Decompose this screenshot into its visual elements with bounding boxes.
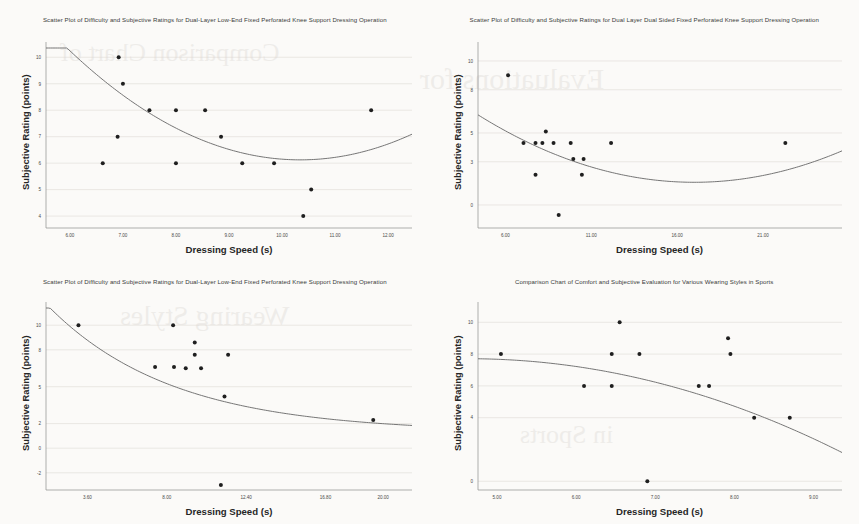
svg-text:12.40: 12.40: [240, 495, 252, 500]
scatter-plot-top-right: 0358106.0011.0016.0021.00: [430, 0, 859, 262]
svg-text:5.00: 5.00: [492, 495, 501, 500]
svg-text:16.00: 16.00: [671, 233, 683, 238]
svg-text:4: 4: [470, 415, 473, 420]
svg-text:10: 10: [467, 320, 473, 325]
svg-text:10: 10: [36, 55, 42, 60]
svg-text:3: 3: [470, 160, 473, 165]
scatter-plot-bottom-left: -20258103.608.0012.4016.8020.00: [0, 262, 430, 524]
svg-text:11.00: 11.00: [330, 233, 342, 238]
svg-text:0: 0: [38, 446, 41, 451]
svg-text:5: 5: [38, 385, 41, 390]
svg-text:-2: -2: [37, 471, 42, 476]
svg-text:7.00: 7.00: [118, 233, 127, 238]
svg-text:6.00: 6.00: [571, 495, 580, 500]
svg-text:8: 8: [470, 88, 473, 93]
y-axis-label: Subjective Rating (points): [452, 74, 463, 190]
panel-top-left: Scatter Plot of Difficulty and Subjectiv…: [0, 0, 430, 262]
x-axis-label: Dressing Speed (s): [46, 244, 412, 255]
svg-text:8.00: 8.00: [162, 495, 171, 500]
svg-text:6.00: 6.00: [500, 233, 509, 238]
x-axis-label: Dressing Speed (s): [478, 506, 842, 517]
panel-bottom-right: Comparison Chart of Comfort and Subjecti…: [430, 262, 859, 524]
svg-text:6.00: 6.00: [65, 233, 74, 238]
svg-text:10.00: 10.00: [276, 233, 288, 238]
scatter-plot-bottom-right: 0468105.006.007.008.009.00: [430, 262, 859, 524]
svg-text:10: 10: [467, 59, 473, 64]
svg-text:8: 8: [38, 348, 41, 353]
chart-grid: Scatter Plot of Difficulty and Subjectiv…: [0, 0, 859, 524]
scatter-plot-top-left: 456789106.007.008.009.0010.0011.0012.00: [0, 0, 430, 262]
svg-text:21.00: 21.00: [757, 233, 769, 238]
svg-text:6: 6: [38, 161, 41, 166]
panel-bottom-left: Scatter Plot of Difficulty and Subjectiv…: [0, 262, 430, 524]
svg-text:8.00: 8.00: [729, 495, 738, 500]
x-axis-label: Dressing Speed (s): [46, 506, 412, 517]
svg-text:6: 6: [470, 384, 473, 389]
svg-text:2: 2: [38, 421, 41, 426]
y-axis-label: Subjective Rating (points): [452, 335, 463, 451]
svg-text:0: 0: [470, 203, 473, 208]
svg-text:12.00: 12.00: [382, 233, 394, 238]
svg-text:8: 8: [38, 108, 41, 113]
svg-text:9.00: 9.00: [225, 233, 234, 238]
panel-top-right: Scatter Plot of Difficulty and Subjectiv…: [430, 0, 859, 262]
svg-text:9: 9: [38, 82, 41, 87]
svg-text:10: 10: [36, 323, 42, 328]
y-axis-label: Subjective Rating (points): [20, 74, 31, 190]
svg-text:20.00: 20.00: [377, 495, 389, 500]
x-axis-label: Dressing Speed (s): [478, 244, 842, 255]
svg-text:8.00: 8.00: [171, 233, 180, 238]
svg-text:7: 7: [38, 134, 41, 139]
svg-text:0: 0: [470, 479, 473, 484]
svg-text:4: 4: [38, 214, 41, 219]
svg-text:8: 8: [470, 352, 473, 357]
svg-text:11.00: 11.00: [585, 233, 597, 238]
svg-text:3.60: 3.60: [83, 495, 92, 500]
svg-text:7.00: 7.00: [650, 495, 659, 500]
y-axis-label: Subjective Rating (points): [20, 335, 31, 451]
svg-text:5: 5: [470, 131, 473, 136]
svg-text:16.80: 16.80: [320, 495, 332, 500]
svg-text:5: 5: [38, 187, 41, 192]
svg-text:9.00: 9.00: [809, 495, 818, 500]
